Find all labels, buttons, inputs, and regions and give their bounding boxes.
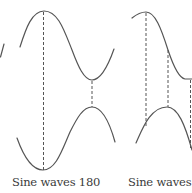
sine-waves-diagram — [0, 0, 192, 193]
caption-sine-waves-180: Sine waves 180 — [12, 175, 100, 189]
left-top-sine-wave — [20, 11, 114, 80]
left-edge-wave-fragment-top — [1, 44, 5, 57]
caption-sine-waves-90: Sine waves 90 — [128, 175, 192, 189]
left-bottom-sine-wave — [17, 107, 115, 170]
right-top-sine-wave — [132, 12, 192, 79]
right-bottom-sine-wave — [136, 107, 192, 150]
